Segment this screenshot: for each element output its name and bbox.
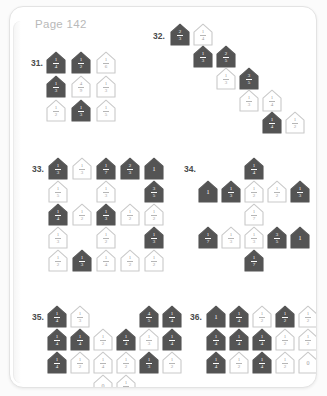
fraction-house[interactable]: 12 bbox=[229, 351, 249, 374]
fraction-house[interactable]: 13 bbox=[193, 45, 213, 68]
fraction-house[interactable]: 1 bbox=[290, 226, 310, 249]
fraction-house[interactable]: 12 bbox=[275, 305, 295, 328]
fraction-house[interactable]: 25 bbox=[216, 45, 236, 68]
fraction-house[interactable]: 13 bbox=[70, 305, 90, 328]
problem-number: 33. bbox=[32, 164, 44, 174]
fraction-house[interactable]: 14 bbox=[116, 328, 136, 351]
fraction-house[interactable]: 14 bbox=[193, 23, 213, 46]
fraction-house[interactable]: 12 bbox=[120, 203, 140, 226]
fraction-house[interactable]: 13 bbox=[96, 180, 116, 203]
fraction-house[interactable]: 35 bbox=[144, 180, 164, 203]
problem-number: 35. bbox=[32, 312, 44, 322]
fraction-house[interactable]: 15 bbox=[48, 180, 68, 203]
problem-number: 31. bbox=[31, 58, 43, 68]
fraction-house[interactable]: 12 bbox=[72, 203, 92, 226]
fraction-house[interactable]: 49 bbox=[71, 75, 91, 98]
fraction-house[interactable]: 45 bbox=[139, 305, 159, 328]
fraction-house[interactable]: 13 bbox=[144, 226, 164, 249]
fraction-house[interactable]: 12 bbox=[144, 249, 164, 272]
fraction-house[interactable]: 14 bbox=[47, 328, 67, 351]
fraction-house[interactable]: 14 bbox=[206, 328, 226, 351]
fraction-house[interactable]: 13 bbox=[221, 180, 241, 203]
fraction-house[interactable]: 14 bbox=[70, 328, 90, 351]
fraction-house[interactable]: 1 bbox=[144, 157, 164, 180]
fraction-house[interactable]: 23 bbox=[120, 157, 140, 180]
fraction-house[interactable]: 12 bbox=[70, 351, 90, 374]
fraction-house[interactable]: 14 bbox=[47, 351, 67, 374]
worksheet-page: Page 142 31.14121613491312131532.2314132… bbox=[0, 0, 327, 396]
fraction-house[interactable]: 12 bbox=[144, 203, 164, 226]
fraction-house[interactable]: 14 bbox=[96, 249, 116, 272]
fraction-house[interactable]: 13 bbox=[244, 226, 264, 249]
fraction-house[interactable]: 13 bbox=[96, 203, 116, 226]
fraction-house[interactable]: 1 bbox=[198, 180, 218, 203]
fraction-house[interactable]: 35 bbox=[239, 67, 259, 90]
fraction-house[interactable]: 14 bbox=[229, 328, 249, 351]
fraction-house[interactable]: 13 bbox=[239, 89, 259, 112]
fraction-house[interactable]: 14 bbox=[262, 111, 282, 134]
fraction-house[interactable]: 12 bbox=[275, 351, 295, 374]
fraction-house[interactable]: 12 bbox=[244, 180, 264, 203]
fraction-house[interactable]: 14 bbox=[244, 157, 264, 180]
fraction-house[interactable]: 13 bbox=[46, 75, 66, 98]
fraction-house[interactable]: 13 bbox=[216, 67, 236, 90]
fraction-house[interactable]: 17 bbox=[96, 157, 116, 180]
fraction-house[interactable]: 17 bbox=[244, 203, 264, 226]
fraction-house[interactable]: 14 bbox=[252, 351, 272, 374]
fraction-house[interactable]: 12 bbox=[120, 249, 140, 272]
problem-number: 32. bbox=[153, 31, 165, 41]
fraction-house[interactable]: 12 bbox=[285, 111, 305, 134]
fraction-house[interactable]: 13 bbox=[96, 75, 116, 98]
fraction-house[interactable]: 12 bbox=[298, 328, 317, 351]
fraction-house[interactable]: 12 bbox=[252, 305, 272, 328]
fraction-house[interactable]: 13 bbox=[221, 226, 241, 249]
fraction-house[interactable]: 13 bbox=[72, 249, 92, 272]
fraction-house[interactable]: 16 bbox=[96, 51, 116, 74]
problem-number: 34. bbox=[184, 164, 196, 174]
fraction-house[interactable]: 23 bbox=[170, 23, 190, 46]
fraction-house[interactable]: 14 bbox=[262, 89, 282, 112]
fraction-house[interactable]: 12 bbox=[46, 99, 66, 122]
fraction-house[interactable]: 17 bbox=[198, 226, 218, 249]
fraction-house[interactable]: 12 bbox=[93, 328, 113, 351]
fraction-house[interactable]: 12 bbox=[116, 351, 136, 374]
card-spiral-edge bbox=[13, 21, 21, 383]
fraction-house[interactable]: 13 bbox=[48, 157, 68, 180]
fraction-house[interactable]: 14 bbox=[93, 351, 113, 374]
fraction-house[interactable]: 14 bbox=[48, 203, 68, 226]
fraction-house[interactable]: 12 bbox=[162, 351, 182, 374]
fraction-house[interactable]: 13 bbox=[71, 99, 91, 122]
fraction-house[interactable]: 12 bbox=[116, 374, 136, 388]
fraction-house[interactable]: 35 bbox=[267, 226, 287, 249]
fraction-house[interactable]: 14 bbox=[206, 351, 226, 374]
fraction-house[interactable]: 13 bbox=[72, 157, 92, 180]
fraction-house[interactable]: 12 bbox=[71, 51, 91, 74]
fraction-house[interactable]: 13 bbox=[139, 351, 159, 374]
fraction-house[interactable]: 17 bbox=[244, 249, 264, 272]
fraction-house[interactable]: 14 bbox=[162, 305, 182, 328]
fraction-house[interactable]: 0 bbox=[298, 351, 317, 374]
fraction-house[interactable]: 15 bbox=[96, 99, 116, 122]
fraction-house[interactable]: 14 bbox=[229, 305, 249, 328]
fraction-house[interactable]: 12 bbox=[48, 249, 68, 272]
fraction-house[interactable]: 1 bbox=[206, 305, 226, 328]
page-label: Page 142 bbox=[35, 18, 87, 30]
fraction-house[interactable]: 13 bbox=[139, 328, 159, 351]
fraction-house[interactable]: 0 bbox=[93, 374, 113, 388]
problem-number: 36. bbox=[190, 312, 202, 322]
worksheet-card: Page 142 31.14121613491312131532.2314132… bbox=[9, 6, 317, 388]
fraction-house[interactable]: 14 bbox=[162, 328, 182, 351]
fraction-house[interactable]: 12 bbox=[275, 328, 295, 351]
fraction-house[interactable]: 12 bbox=[267, 180, 287, 203]
fraction-house[interactable]: 13 bbox=[290, 180, 310, 203]
fraction-house[interactable]: 12 bbox=[298, 305, 317, 328]
fraction-house[interactable]: 13 bbox=[48, 226, 68, 249]
fraction-house[interactable]: 12 bbox=[96, 226, 116, 249]
fraction-house[interactable]: 14 bbox=[252, 328, 272, 351]
fraction-house[interactable]: 14 bbox=[46, 51, 66, 74]
fraction-house[interactable]: 14 bbox=[47, 305, 67, 328]
